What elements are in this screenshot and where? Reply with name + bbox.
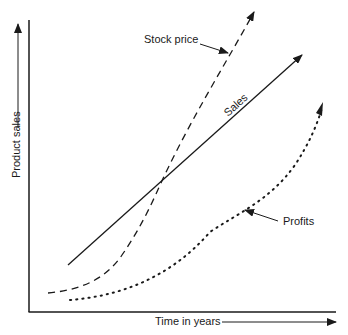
x-axis-label: Time in years — [155, 315, 221, 327]
profits-pointer-icon — [245, 210, 278, 221]
chart: Sales Stock price Profits Time in years … — [0, 0, 348, 335]
profits-arrowhead-icon — [316, 102, 323, 116]
profits-annotation: Profits — [283, 215, 314, 227]
stock-price-pointer-icon — [200, 44, 228, 53]
y-axis-label: Product sales — [10, 111, 22, 178]
sales-line — [68, 55, 302, 265]
stock-price-annotation: Stock price — [144, 33, 198, 45]
chart-svg: Sales — [0, 0, 348, 335]
stock-price-line — [48, 12, 254, 293]
